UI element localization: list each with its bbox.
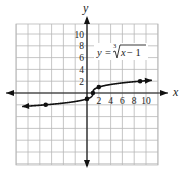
x-axis-label: x — [172, 85, 179, 99]
x-tick-label: 8 — [132, 96, 137, 106]
equation-root-index: 3 — [113, 42, 116, 49]
y-tick-label: 6 — [79, 53, 84, 63]
data-point — [97, 85, 102, 90]
y-tick-label: 4 — [79, 65, 84, 75]
data-point — [85, 97, 90, 102]
y-tick-label: 10 — [75, 30, 85, 40]
curve-right-arrow-icon — [145, 78, 152, 84]
data-point — [43, 103, 48, 108]
curve-left-arrow-icon — [22, 103, 29, 109]
equation-lhs: y — [96, 47, 102, 58]
equation-label: y = 3 x − 1 — [94, 42, 148, 60]
equation-radicand-var: x — [120, 47, 126, 58]
x-axis-left-arrow-icon — [6, 90, 14, 96]
y-tick-label: 2 — [79, 77, 84, 87]
data-point — [91, 91, 96, 96]
x-tick-label: 2 — [96, 96, 101, 106]
x-tick-label: 6 — [120, 96, 125, 106]
x-tick-label: 4 — [108, 96, 113, 106]
graph-canvas: 246810246810 x y y = 3 x − 1 — [0, 0, 180, 172]
x-tick-label: 10 — [141, 96, 151, 106]
axes — [6, 16, 168, 168]
data-point — [138, 79, 143, 84]
y-axis-label: y — [82, 1, 89, 15]
equation-radicand-rest: − 1 — [127, 47, 141, 58]
equation-equals: = — [105, 47, 111, 58]
tick-labels: 246810246810 — [75, 30, 152, 107]
x-axis-right-arrow-icon — [160, 90, 168, 96]
y-axis-up-arrow-icon — [84, 16, 90, 24]
y-tick-label: 8 — [79, 41, 84, 51]
